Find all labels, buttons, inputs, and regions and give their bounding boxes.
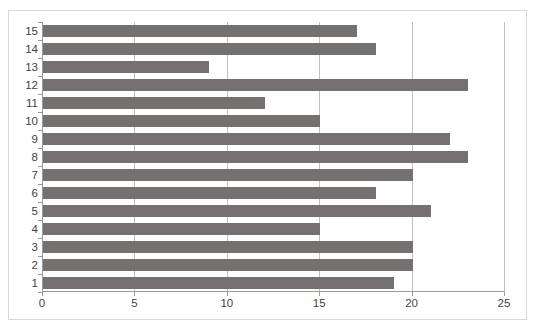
y-axis-tick-label: 3	[12, 241, 38, 253]
y-axis-tick-label: 6	[12, 187, 38, 199]
bar-fill	[43, 259, 413, 271]
bar-fill	[43, 205, 431, 217]
bar-fill	[43, 43, 376, 55]
bar-fill	[43, 277, 394, 289]
bar-fill	[43, 133, 450, 145]
bar-fill	[43, 151, 468, 163]
bar-fill	[43, 241, 413, 253]
bar-fill	[43, 97, 265, 109]
y-axis-tick-label: 2	[12, 259, 38, 271]
bar	[43, 187, 376, 199]
chart-frame: 123456789101112131415 0510152025	[8, 10, 527, 320]
bar-fill	[43, 169, 413, 181]
y-axis-tick-label: 10	[12, 115, 38, 127]
bar	[43, 241, 413, 253]
bar	[43, 205, 431, 217]
bar	[43, 133, 450, 145]
y-axis-tick-label: 15	[12, 25, 38, 37]
y-axis-tick-label: 13	[12, 61, 38, 73]
bar	[43, 151, 468, 163]
y-axis-tick-label: 14	[12, 43, 38, 55]
bar-series	[42, 22, 504, 292]
bar	[43, 169, 413, 181]
x-axis-tick-label: 20	[405, 296, 418, 310]
x-axis-tick-label: 5	[131, 296, 137, 310]
bar	[43, 115, 320, 127]
bar	[43, 259, 413, 271]
y-axis: 123456789101112131415	[9, 22, 38, 292]
bar-fill	[43, 61, 209, 73]
bar	[43, 79, 468, 91]
bar	[43, 43, 376, 55]
bar-fill	[43, 187, 376, 199]
bar-fill	[43, 79, 468, 91]
y-axis-tick-label: 8	[12, 151, 38, 163]
y-axis-tick-label: 4	[12, 223, 38, 235]
x-axis: 0510152025	[42, 296, 504, 316]
x-axis-tick-label: 10	[220, 296, 233, 310]
y-axis-tick-label: 7	[12, 169, 38, 181]
y-axis-tick-label: 5	[12, 205, 38, 217]
x-axis-tick-label: 25	[498, 296, 511, 310]
bar	[43, 25, 357, 37]
y-axis-tick-label: 12	[12, 79, 38, 91]
y-axis-tick-label: 11	[12, 97, 38, 109]
bar	[43, 223, 320, 235]
y-axis-tick-label: 1	[12, 277, 38, 289]
bar-fill	[43, 25, 357, 37]
bar	[43, 97, 265, 109]
bar-fill	[43, 115, 320, 127]
bar-fill	[43, 223, 320, 235]
bar	[43, 277, 394, 289]
plot-area	[42, 22, 504, 292]
x-axis-tick-label: 0	[39, 296, 45, 310]
gridline-v	[504, 22, 505, 292]
bar	[43, 61, 209, 73]
x-axis-tick-label: 15	[313, 296, 326, 310]
y-axis-tick-label: 9	[12, 133, 38, 145]
